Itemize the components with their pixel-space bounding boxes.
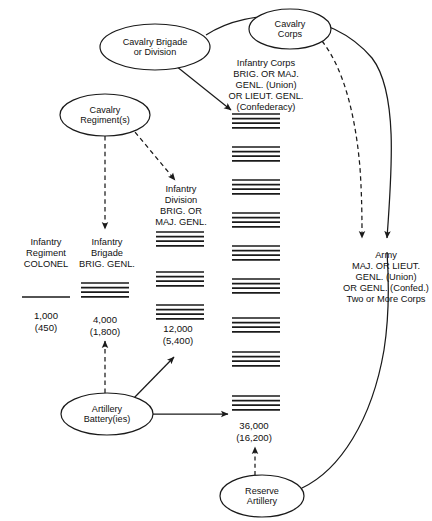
infantry-corps-stack-group-2 <box>232 180 280 194</box>
infantry-corps-stack-group-4 <box>232 246 280 260</box>
corps-strength: 36,000 (16,200) <box>219 420 289 443</box>
army-label: Army MAJ. OR LIEUT. GENL. (Union) OR GEN… <box>341 250 431 305</box>
infantry-corps-stack <box>232 114 280 410</box>
infantry-regiment-label: Infantry Regiment COLONEL <box>9 237 83 270</box>
infantry-corps-stack-group-6 <box>232 318 280 332</box>
infantry-division-stack-group-2 <box>156 305 204 319</box>
node-label-artillery-battery: Artillery Battery(ies) <box>61 393 153 435</box>
infantry-corps-stack-group-8 <box>232 396 280 410</box>
division-strength: 12,000 (5,400) <box>143 323 213 346</box>
node-label-reserve-artillery: Reserve Artillery <box>220 475 304 517</box>
infantry-corps-stack-group-7 <box>232 352 280 366</box>
brigade-strength: 4,000 (1,800) <box>70 314 140 337</box>
node-label-cavalry-corps: Cavalry Corps <box>249 9 331 49</box>
infantry-division-stack-group-1 <box>156 272 204 286</box>
infantry-corps-label: Infantry Corps BRIG. OR MAJ. GENL. (Unio… <box>213 58 319 113</box>
infantry-division-stack <box>156 232 204 319</box>
infantry-brigade-stack <box>81 283 129 297</box>
infantry-corps-stack-group-1 <box>232 147 280 161</box>
infantry-corps-stack-group-0 <box>232 114 280 128</box>
node-label-cavalry-brigade: Cavalry Brigade or Division <box>100 24 210 70</box>
infantry-division-stack-group-0 <box>156 232 204 246</box>
infantry-division-label: Infantry Division BRIG. OR MAJ. GENL. <box>145 184 217 228</box>
cav-corps-to-army-curve <box>322 41 362 238</box>
infantry-corps-stack-group-5 <box>232 279 280 293</box>
organization-chart: Cavalry Corps Cavalry Brigade or Divisio… <box>0 0 432 521</box>
infantry-brigade-stack-group-0 <box>81 283 129 297</box>
node-label-cavalry-regiment: Cavalry Regiment(s) <box>60 94 150 136</box>
infantry-corps-stack-group-3 <box>232 213 280 227</box>
